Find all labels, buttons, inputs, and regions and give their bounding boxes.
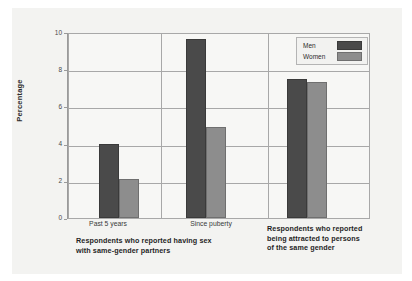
x-tick-since-puberty: Since puberty bbox=[180, 220, 242, 227]
x-tick-past-5-years: Past 5 years bbox=[78, 220, 138, 227]
caption-right-line3: of the same gender bbox=[267, 243, 387, 253]
legend: Men Women bbox=[296, 37, 368, 65]
bar-men-attraction bbox=[287, 79, 307, 219]
y-tickmark-0 bbox=[64, 219, 67, 220]
caption-right-line1: Respondents who reported bbox=[267, 224, 387, 234]
bar-women-since-puberty bbox=[206, 127, 226, 218]
y-tick-6: 6 bbox=[44, 103, 62, 110]
legend-swatch-women-icon bbox=[337, 52, 362, 61]
caption-right-line2: being attracted to persons bbox=[267, 234, 387, 244]
gridline-8 bbox=[69, 71, 369, 72]
y-tick-8: 8 bbox=[44, 66, 62, 73]
legend-label-men: Men bbox=[303, 40, 316, 51]
y-tick-0: 0 bbox=[44, 214, 62, 221]
bar-men-since-puberty bbox=[186, 39, 206, 218]
legend-label-women: Women bbox=[303, 51, 325, 62]
caption-left: Respondents who reported having sex with… bbox=[76, 236, 236, 255]
figure: Percentage 10 8 6 4 2 0 Men bbox=[0, 0, 412, 281]
legend-swatch-men-icon bbox=[337, 41, 362, 50]
legend-item-men: Men bbox=[297, 40, 367, 51]
panel-divider-2 bbox=[268, 34, 269, 218]
bar-women-attraction bbox=[307, 82, 327, 218]
y-tick-4: 4 bbox=[44, 140, 62, 147]
bar-men-past-5-years bbox=[99, 144, 119, 218]
caption-left-line2: with same-gender partners bbox=[76, 246, 236, 256]
caption-right: Respondents who reported being attracted… bbox=[267, 224, 387, 253]
panel-divider-1 bbox=[161, 34, 162, 218]
bar-women-past-5-years bbox=[119, 179, 139, 218]
y-tick-2: 2 bbox=[44, 177, 62, 184]
y-tick-10: 10 bbox=[44, 29, 62, 36]
y-axis-label: Percentage bbox=[15, 56, 24, 146]
caption-left-line1: Respondents who reported having sex bbox=[76, 236, 236, 246]
legend-item-women: Women bbox=[297, 51, 367, 62]
